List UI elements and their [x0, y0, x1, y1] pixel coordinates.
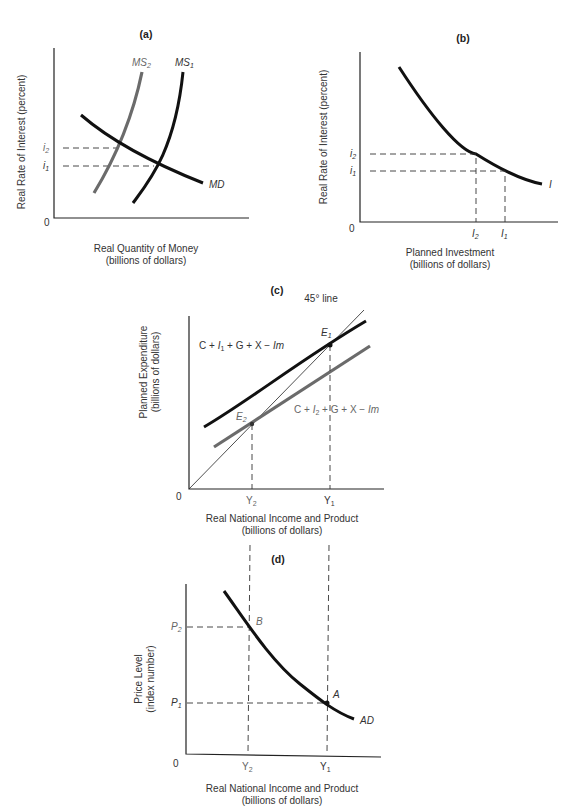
panel-d-origin: 0 [173, 758, 179, 769]
panel-d-ylabel-2: (index number) [145, 645, 156, 712]
panel-b-xlabel-2: (billions of dollars) [410, 259, 491, 270]
figure-canvas: (a) Real Rate of Interest (percent) 0 i2… [0, 0, 578, 807]
panel-d-y1-tick: Y1 [320, 761, 331, 773]
panel-a-axes [54, 48, 249, 218]
panel-b-I2-xtick: I2 [472, 228, 479, 240]
panel-d-ylabel-1: Price Level [133, 654, 144, 703]
panel-a-ms1-curve [133, 72, 183, 203]
panel-c-45-label: 45° line [304, 293, 338, 304]
panel-b-I1-xtick: I1 [501, 228, 508, 240]
panel-d: (d) Price Level (index number) 0 AD A B … [133, 545, 381, 806]
panel-a-md-label: MD [209, 179, 225, 190]
panel-a-ms2-curve [94, 72, 142, 193]
panel-d-y1-guide [327, 545, 329, 754]
panel-c-e2-point [250, 422, 254, 426]
panel-c-ae-lower-curve [214, 346, 370, 447]
panel-c-origin: 0 [176, 491, 182, 502]
panel-d-a-point [325, 701, 330, 706]
panel-a-xlabel-1: Real Quantity of Money [94, 243, 199, 254]
panel-b: (b) Real Rate of Interest (percent) 0 I … [318, 32, 558, 270]
panel-a-i2-tick: i2 [43, 142, 49, 154]
panel-c-ylabel-2: (billions of dollars) [150, 332, 161, 413]
panel-b-i-label: I [549, 179, 552, 190]
panel-a-i1-tick: i1 [43, 160, 49, 172]
panel-d-title: (d) [271, 553, 284, 565]
panel-b-i2-ytick: i2 [350, 148, 356, 160]
panel-c-ae-lower-label: C + I2 + G + X − Im [294, 404, 379, 416]
panel-c-e1-label: E1 [321, 327, 332, 339]
panel-c-e1-point [328, 343, 333, 348]
panel-a-ms1-label: MS1 [175, 57, 194, 69]
panel-c-title: (c) [271, 284, 284, 296]
panel-d-p2-tick: P2 [171, 621, 182, 633]
panel-a-ms2-label: MS2 [132, 57, 151, 69]
panel-d-a-label: A [332, 689, 340, 700]
panel-a-ylabel: Real Rate of Interest (percent) [16, 75, 27, 210]
panel-b-i1-guide [370, 171, 505, 222]
panel-c-xlabel-2: (billions of dollars) [242, 525, 323, 536]
panel-b-axes [360, 52, 558, 222]
panel-b-i-curve [399, 67, 542, 184]
panel-a-md-curve [81, 115, 203, 183]
panel-b-i1-ytick: i1 [350, 165, 356, 177]
panel-b-i2-guide [370, 154, 476, 222]
panel-a-title: (a) [140, 28, 153, 40]
panel-a-xlabel-2: (billions of dollars) [106, 255, 187, 266]
panel-a-origin: 0 [44, 217, 50, 228]
panel-b-origin: 0 [349, 223, 355, 234]
panel-d-xlabel-2: (billions of dollars) [242, 795, 323, 806]
panel-c-y2-tick: Y2 [246, 495, 257, 507]
panel-c-xlabel-1: Real National Income and Product [206, 513, 359, 524]
panel-d-xlabel-1: Real National Income and Product [206, 783, 359, 794]
panel-c-ae-upper-label: C + I1 + G + X − Im [199, 340, 284, 352]
panel-b-xlabel-1: Planned Investment [406, 247, 495, 258]
panel-b-title: (b) [456, 32, 469, 44]
panel-d-b-label: B [256, 616, 263, 627]
panel-c: (c) 45° line Planned Expenditure (billio… [138, 284, 384, 536]
panel-d-p1-tick: P1 [171, 697, 182, 709]
panel-d-y2-guide [248, 545, 250, 754]
panel-d-ad-label: AD [359, 715, 374, 726]
panel-a: (a) Real Rate of Interest (percent) 0 i2… [16, 28, 249, 266]
panel-c-e2-label: E2 [236, 411, 247, 423]
panel-b-ylabel: Real Rate of Interest (percent) [318, 70, 329, 205]
panel-d-y2-tick: Y2 [242, 761, 253, 773]
panel-c-y1-tick: Y1 [324, 495, 335, 507]
panel-c-ylabel-1: Planned Expenditure [138, 325, 149, 418]
